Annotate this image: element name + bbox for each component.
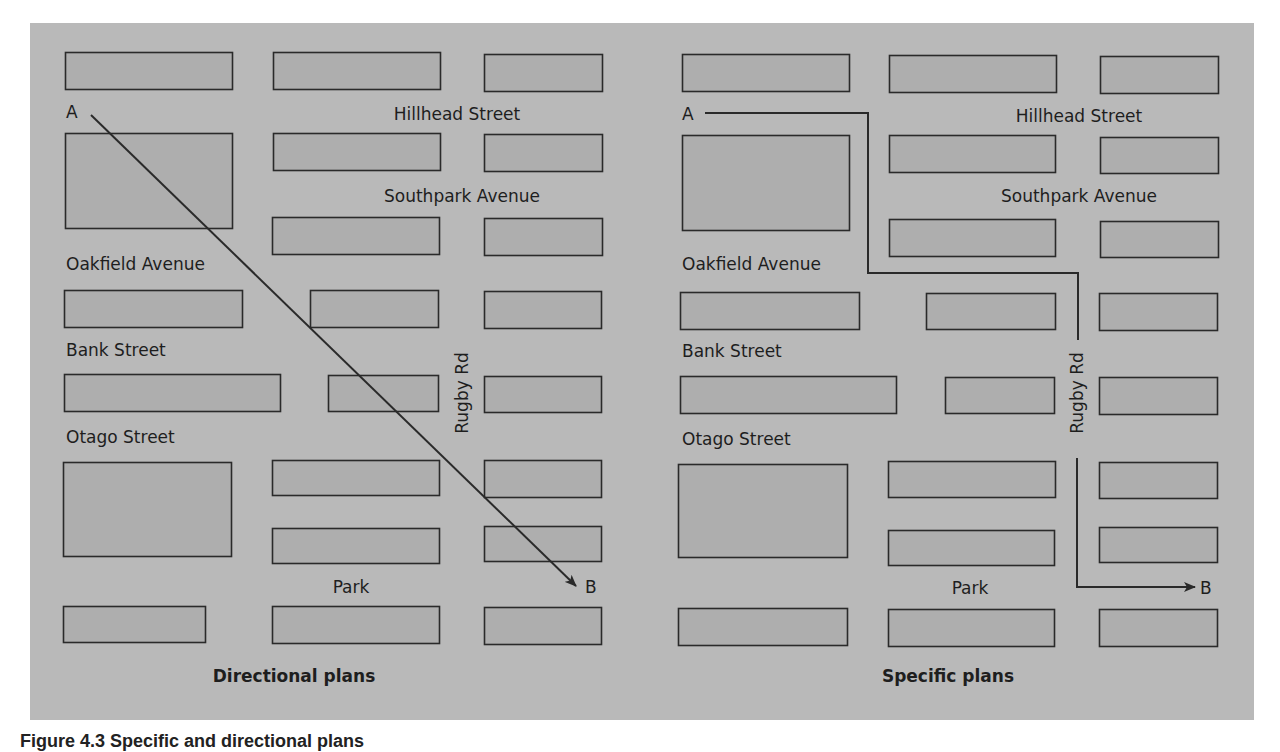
city-block: [66, 53, 233, 90]
city-block: [681, 377, 897, 414]
city-block: [485, 55, 603, 92]
city-block: [890, 136, 1056, 173]
city-block: [889, 462, 1056, 498]
city-block: [1100, 610, 1218, 647]
city-block: [1101, 222, 1219, 258]
city-block: [65, 375, 281, 412]
city-block: [890, 220, 1056, 257]
city-block: [274, 53, 441, 90]
city-block: [681, 293, 860, 330]
street-label: Bank Street: [66, 340, 166, 360]
city-block: [274, 134, 441, 171]
street-label: Park: [333, 577, 370, 597]
street-label: Oakfield Avenue: [66, 254, 205, 274]
city-block: [679, 609, 848, 646]
city-block: [679, 465, 848, 558]
street-label: Hillhead Street: [394, 104, 521, 124]
city-block: [329, 376, 439, 412]
street-label: Otago Street: [682, 429, 791, 449]
point-a-label: A: [66, 102, 78, 122]
city-block: [65, 291, 243, 328]
city-block: [64, 463, 232, 557]
street-label-rugby-rd: Rugby Rd: [1067, 352, 1087, 433]
city-block: [1101, 57, 1219, 94]
point-b-label: B: [1200, 578, 1212, 598]
city-block: [1100, 463, 1218, 499]
city-block: [273, 218, 440, 255]
city-block: [1100, 294, 1218, 331]
point-a-label: A: [682, 104, 694, 124]
city-block: [485, 219, 603, 256]
street-label: Park: [952, 578, 989, 598]
city-block: [927, 294, 1056, 330]
city-block: [1101, 138, 1219, 174]
street-label: Otago Street: [66, 427, 175, 447]
city-block: [64, 607, 206, 643]
street-label: Bank Street: [682, 341, 782, 361]
city-block: [273, 607, 440, 644]
point-b-label: B: [585, 577, 597, 597]
city-block: [485, 461, 602, 498]
figure-caption: Figure 4.3 Specific and directional plan…: [20, 731, 364, 752]
city-block: [1100, 528, 1218, 563]
street-label: Southpark Avenue: [384, 186, 540, 206]
city-block: [485, 527, 602, 562]
city-block: [311, 291, 439, 328]
street-label-rugby-rd: Rugby Rd: [452, 352, 472, 433]
city-block: [946, 378, 1055, 414]
city-block: [890, 56, 1057, 93]
street-label: Oakfield Avenue: [682, 254, 821, 274]
city-block: [273, 461, 440, 496]
city-block: [683, 136, 850, 231]
city-block: [889, 610, 1055, 647]
city-block: [485, 608, 602, 645]
city-block: [485, 292, 602, 329]
street-label: Southpark Avenue: [1001, 186, 1157, 206]
city-block: [889, 531, 1055, 566]
city-block: [273, 529, 440, 564]
city-block: [66, 134, 233, 229]
street-label: Hillhead Street: [1016, 106, 1143, 126]
city-block: [485, 377, 602, 413]
city-block: [1100, 378, 1218, 415]
panel-title: Specific plans: [882, 666, 1014, 686]
city-block: [485, 135, 603, 172]
city-block: [683, 55, 850, 92]
panel-title: Directional plans: [213, 666, 376, 686]
